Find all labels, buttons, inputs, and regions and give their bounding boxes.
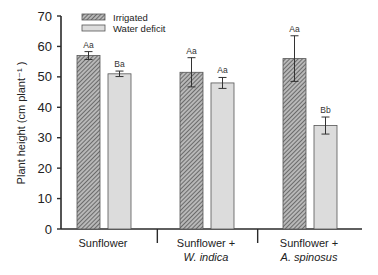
legend-swatch [82, 25, 105, 31]
significance-label: Aa [83, 40, 94, 50]
significance-label: Aa [217, 65, 228, 75]
x-category-label: Sunflower + [177, 237, 235, 249]
x-category-sublabel: A. spinosus [280, 251, 338, 263]
bar-irrigated [283, 59, 306, 229]
legend-swatch [82, 14, 105, 20]
x-category-sublabel: W. indica [184, 251, 229, 263]
y-tick-label: 0 [45, 222, 52, 237]
y-tick-label: 50 [38, 69, 52, 84]
bar-water-deficit [314, 126, 337, 229]
legend: IrrigatedWater deficit [82, 12, 166, 34]
significance-label: Aa [186, 46, 197, 56]
bar-water-deficit [108, 74, 131, 229]
significance-label: Bb [320, 105, 331, 115]
bar-irrigated [180, 72, 203, 229]
significance-label: Aa [289, 24, 300, 34]
y-tick-label: 70 [38, 9, 52, 24]
y-axis: 010203040506070 [38, 9, 61, 237]
y-tick-label: 30 [38, 130, 52, 145]
bar-irrigated [77, 56, 100, 229]
legend-label: Water deficit [113, 23, 166, 34]
bar-chart: 010203040506070 SunflowerSunflower +W. i… [0, 0, 378, 275]
x-category-label: Sunflower [79, 237, 128, 249]
y-axis-label: Plant height (cm plant⁻¹ ) [15, 62, 27, 185]
bars-group: AaAaAaBaAaBb [77, 24, 337, 229]
x-axis: SunflowerSunflower +W. indicaSunflower +… [61, 229, 362, 263]
x-category-label: Sunflower + [280, 237, 338, 249]
y-tick-label: 60 [38, 39, 52, 54]
y-tick-label: 20 [38, 161, 52, 176]
bar-water-deficit [211, 83, 234, 229]
y-tick-label: 40 [38, 100, 52, 115]
legend-label: Irrigated [113, 12, 148, 23]
significance-label: Ba [114, 59, 125, 69]
y-tick-label: 10 [38, 191, 52, 206]
